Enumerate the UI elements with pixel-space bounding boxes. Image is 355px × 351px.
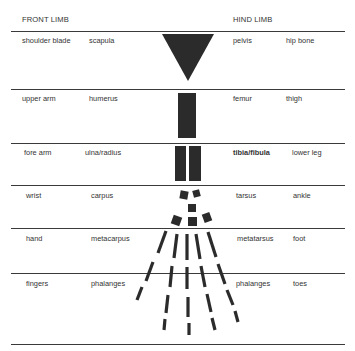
metacarpal-bone (174, 234, 177, 258)
phalanx-bone (218, 264, 225, 284)
phalanx-bone (207, 294, 211, 312)
phalanx-bone (201, 266, 205, 287)
humerus-femur-shape (178, 93, 196, 138)
carpal-bone (202, 212, 213, 223)
phalanx-bone (166, 295, 168, 313)
phalanx-bone (170, 266, 172, 287)
ulna-shape (175, 146, 186, 181)
carpal-bone (192, 189, 201, 198)
metacarpal-bone (196, 234, 200, 259)
phalanx-bone (212, 318, 215, 330)
phalanx-bone (137, 287, 142, 300)
phalanx-bone (146, 262, 153, 281)
limb-bone-schematic (0, 0, 355, 351)
phalanx-bone (227, 290, 233, 305)
metacarpal-bone (158, 231, 166, 253)
carpal-bone (179, 190, 188, 199)
carpal-bone (188, 217, 197, 226)
scapula-pelvis-shape (162, 34, 214, 81)
metacarpal-bone (208, 232, 216, 257)
carpal-bone (171, 215, 183, 227)
radius-shape (189, 146, 201, 181)
phalanx-bone (235, 311, 238, 322)
phalanx-bone (164, 319, 165, 330)
carpal-bone (188, 204, 196, 212)
